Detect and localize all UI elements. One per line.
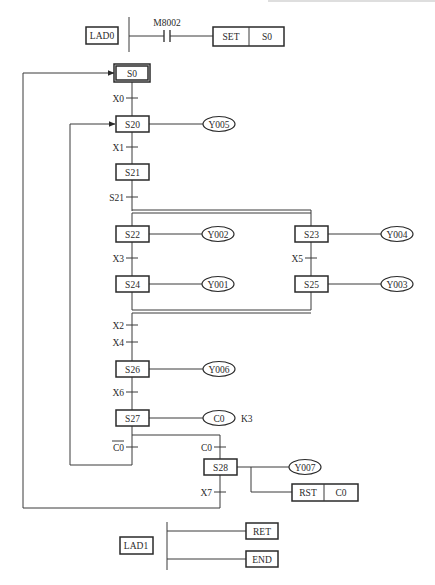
step-label: S0 xyxy=(127,69,137,79)
transition-x4: X4 xyxy=(112,338,138,348)
step-s21: S21 xyxy=(116,164,149,180)
transition-s21: S21 xyxy=(109,193,138,203)
output-label: Y003 xyxy=(386,280,407,290)
step-s25: S25 xyxy=(295,276,328,292)
output-c0: C0K3 xyxy=(203,411,253,426)
transition-label: X3 xyxy=(112,254,124,264)
transition-not-c0: C0 xyxy=(112,441,138,453)
output-label: Y002 xyxy=(207,230,228,240)
transition-label: X0 xyxy=(112,94,124,104)
transition-x5: X5 xyxy=(291,254,317,264)
rst-instruction: RST C0 xyxy=(292,484,358,501)
output-label: Y001 xyxy=(207,280,228,290)
lad1-rung: LAD1 RET END xyxy=(120,522,278,570)
end-label: END xyxy=(252,555,272,565)
step-label: S24 xyxy=(125,280,140,290)
transition-label: C0 xyxy=(201,443,212,453)
transition-label: X1 xyxy=(112,143,124,153)
output-y003: Y003 xyxy=(381,277,413,292)
step-s28: S28 xyxy=(204,459,237,475)
output-label: Y007 xyxy=(294,463,315,473)
step-label: S28 xyxy=(213,463,228,473)
transition-label: C0 xyxy=(113,443,124,453)
transition-x2: X2 xyxy=(112,321,138,331)
step-label: S20 xyxy=(125,120,140,130)
transition-c0: C0 xyxy=(201,443,226,453)
transition-label: X6 xyxy=(112,388,124,398)
normally-open-contact-icon xyxy=(164,30,170,42)
output-y002: Y002 xyxy=(202,227,234,242)
output-y005: Y005 xyxy=(203,117,235,132)
transition-label: X4 xyxy=(112,338,124,348)
transition-x6: X6 xyxy=(112,388,138,398)
output-y006: Y006 xyxy=(203,362,235,377)
transition-label: X5 xyxy=(291,254,303,264)
contact-m8002-label: M8002 xyxy=(153,18,181,28)
transition-label: S21 xyxy=(109,193,124,203)
transition-x3: X3 xyxy=(112,254,138,264)
lad1-label: LAD1 xyxy=(124,541,149,551)
lad0-rung: LAD0 M8002 SET S0 xyxy=(86,17,284,52)
step-label: S26 xyxy=(125,365,140,375)
rst-operand-label: C0 xyxy=(335,488,346,498)
output-label: Y004 xyxy=(386,230,407,240)
output-y007: Y007 xyxy=(289,460,321,475)
set-op-label: SET xyxy=(223,32,240,42)
step-label: S25 xyxy=(304,280,319,290)
step-s0: S0 xyxy=(114,64,150,82)
step-label: S22 xyxy=(125,230,140,240)
set-operand-label: S0 xyxy=(262,32,272,42)
rst-op-label: RST xyxy=(299,488,317,498)
step-s22: S22 xyxy=(116,226,149,242)
output-label: C0 xyxy=(213,414,224,424)
outputs: Y005Y002Y004Y001Y003Y006C0K3Y007 xyxy=(202,117,413,475)
lad0-label: LAD0 xyxy=(90,31,115,41)
step-label: S23 xyxy=(304,230,319,240)
transition-label: X2 xyxy=(112,321,124,331)
step-s24: S24 xyxy=(116,276,149,292)
transitions: X0X1S21X3X5X2X4X6C0C0X7 xyxy=(109,94,317,498)
action-links xyxy=(149,124,381,418)
ret-label: RET xyxy=(253,527,271,537)
transition-label: X7 xyxy=(200,488,212,498)
step-s23: S23 xyxy=(295,226,328,242)
transition-x1: X1 xyxy=(112,143,138,153)
transition-x7: X7 xyxy=(200,488,226,498)
step-s20: S20 xyxy=(116,116,149,132)
output-y001: Y001 xyxy=(202,277,234,292)
sfc-diagram: LAD0 M8002 SET S0 xyxy=(0,0,435,585)
counter-preset-label: K3 xyxy=(241,414,253,424)
step-s26: S26 xyxy=(116,361,149,377)
step-label: S27 xyxy=(125,414,140,424)
step-label: S21 xyxy=(125,168,140,178)
transition-x0: X0 xyxy=(112,94,138,104)
step-s27: S27 xyxy=(116,410,149,426)
output-label: Y005 xyxy=(208,120,229,130)
sfc-links xyxy=(23,73,311,508)
output-y004: Y004 xyxy=(381,227,413,242)
output-label: Y006 xyxy=(208,365,229,375)
